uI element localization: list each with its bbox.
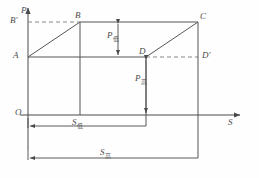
- segment-c-d: [146, 22, 198, 57]
- p-axis-label: P: [21, 6, 27, 15]
- origin-label: O: [15, 108, 22, 117]
- s-low-subscript: 低: [77, 123, 83, 129]
- p-low-subscript: 低: [113, 36, 119, 42]
- p-high-label: P高: [135, 74, 147, 85]
- point-label-b: B: [75, 11, 81, 20]
- point-label-d: D: [139, 47, 146, 56]
- figure-canvas: P S O A B C D B' D' P低 P高 S低 S高: [0, 0, 259, 178]
- diagram-svg: [0, 0, 259, 178]
- point-label-c: C: [200, 12, 206, 21]
- s-low-label: S低: [72, 118, 83, 129]
- point-label-d-prime: D': [202, 51, 210, 60]
- point-label-b-prime: B': [10, 16, 17, 25]
- s-axis-label: S: [228, 118, 233, 127]
- point-label-a: A: [13, 51, 19, 60]
- s-high-label: S高: [100, 148, 111, 159]
- p-high-subscript: 高: [141, 79, 147, 85]
- s-high-subscript: 高: [105, 153, 111, 159]
- p-low-label: P低: [107, 31, 119, 42]
- segment-a-b: [28, 22, 80, 57]
